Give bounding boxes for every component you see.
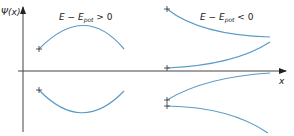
- region-right-label: E − Epot < 0: [200, 12, 254, 24]
- region-left-label: E − Epot > 0: [59, 12, 113, 24]
- wavefunction-diagram: Ψ(x) x E − Epot > 0 E − Epot < 0: [0, 0, 294, 136]
- curve-oscillatory-positive: [39, 26, 124, 50]
- curve-decaying-lower-negative: [167, 106, 268, 133]
- y-axis-label: Ψ(x): [1, 7, 20, 17]
- curve-growing-upper-negative: [167, 73, 270, 100]
- curve-growing-lower-positive: [167, 42, 270, 68]
- x-axis-label: x: [278, 76, 285, 86]
- curve-oscillatory-negative: [39, 90, 124, 113]
